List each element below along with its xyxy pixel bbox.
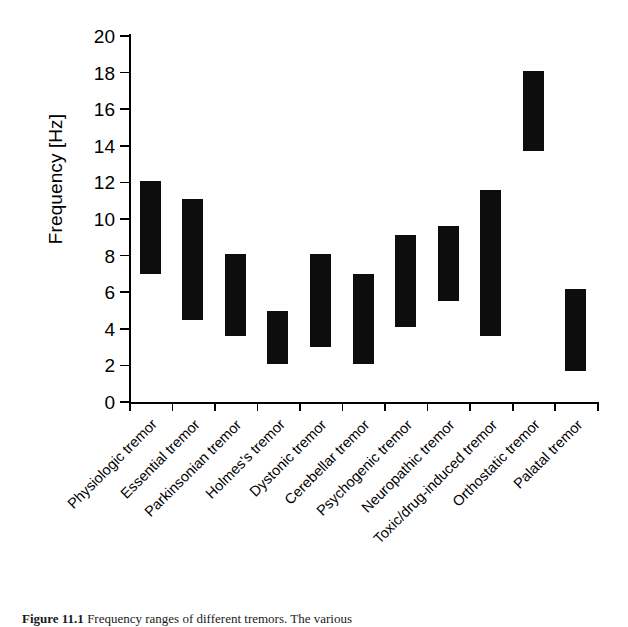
- x-axis-label: Dystonic tremor: [247, 417, 330, 500]
- x-axis-label-group: Physiologic tremorEssential tremorParkin…: [0, 0, 628, 627]
- figure-caption-number: Figure 11.1: [22, 611, 84, 626]
- figure-tremor-frequency-ranges: Frequency [Hz] 02468101214161820 Physiol…: [0, 0, 628, 627]
- figure-caption: Figure 11.1 Frequency ranges of differen…: [22, 611, 608, 627]
- figure-caption-text: Frequency ranges of different tremors. T…: [87, 611, 352, 626]
